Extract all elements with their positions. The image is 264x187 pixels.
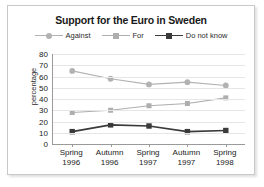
legend-label-against: Against: [66, 31, 91, 40]
x-axis-tick-label: Spring1996: [60, 148, 83, 167]
square-marker-icon: [113, 33, 119, 39]
x-axis-tick-mark: [187, 144, 188, 147]
y-axis-tick-label: 50: [26, 83, 48, 92]
legend-swatch-do-not-know: [155, 31, 183, 40]
gridline: [53, 54, 245, 55]
y-axis-tick-label: 40: [26, 95, 48, 104]
x-axis-tick-mark: [72, 144, 73, 147]
legend-item-against[interactable]: Against: [35, 31, 91, 40]
plot-area: [52, 54, 245, 145]
gridline: [53, 122, 245, 123]
x-axis-tick-mark: [111, 144, 112, 147]
y-axis-tick-label: 0: [26, 140, 48, 149]
y-axis-tick-label: 60: [26, 72, 48, 81]
x-axis-tick-mark: [226, 144, 227, 147]
gridline: [53, 77, 245, 78]
legend-swatch-for: [102, 31, 130, 40]
data-point-circle: [146, 81, 152, 87]
legend-swatch-against: [35, 31, 63, 40]
data-point-square: [147, 103, 152, 108]
x-axis-tick-label: Spring1998: [213, 148, 236, 167]
gridline: [53, 88, 245, 89]
plot-wrapper: percentage 80706050403020100 Spring1996A…: [8, 50, 256, 174]
y-axis-tick-label: 30: [26, 106, 48, 115]
y-axis-tick-label: 80: [26, 50, 48, 59]
legend-item-do-not-know[interactable]: Do not know: [155, 31, 228, 40]
data-point-circle: [69, 68, 75, 74]
gridline: [53, 65, 245, 66]
x-axis-tick-label: Autumn1996: [96, 148, 124, 167]
legend-item-for[interactable]: For: [102, 31, 144, 40]
gridline: [53, 110, 245, 111]
y-axis-ticks: 80706050403020100: [20, 50, 48, 174]
data-point-circle: [185, 79, 191, 85]
chart-title: Support for the Euro in Sweden: [8, 14, 254, 26]
gridline: [53, 133, 245, 134]
chart-container: Support for the Euro in Sweden Against F…: [7, 5, 255, 175]
x-axis-tick-label: Autumn1997: [173, 148, 201, 167]
circle-marker-icon: [46, 33, 52, 39]
legend-label-do-not-know: Do not know: [186, 31, 228, 40]
x-axis-labels: Spring1996Autumn1996Spring1997Autumn1997…: [52, 148, 244, 174]
y-axis-tick-label: 10: [26, 128, 48, 137]
x-axis-tick-mark: [149, 144, 150, 147]
data-point-square: [185, 101, 190, 106]
y-axis-tick-label: 20: [26, 117, 48, 126]
y-axis-tick-label: 70: [26, 61, 48, 70]
chart-legend: Against For Do not know: [8, 31, 254, 40]
data-point-square: [146, 123, 151, 128]
square-marker-icon: [166, 33, 172, 39]
gridline: [53, 99, 245, 100]
legend-label-for: For: [133, 31, 144, 40]
x-axis-tick-label: Spring1997: [136, 148, 159, 167]
data-point-square: [108, 122, 113, 127]
